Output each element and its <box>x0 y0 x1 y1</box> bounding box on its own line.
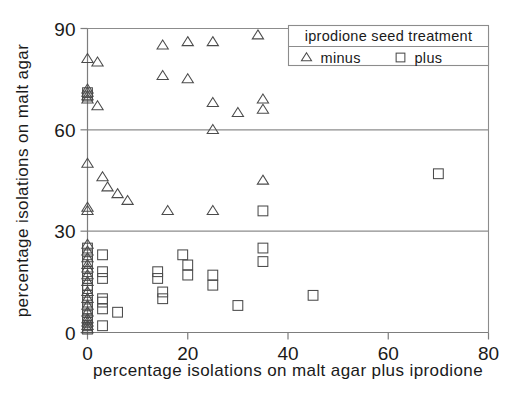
data-point-minus <box>157 40 168 49</box>
series-plus <box>83 88 444 334</box>
data-point-plus <box>98 274 108 284</box>
data-point-plus <box>233 301 243 311</box>
data-point-plus <box>183 270 193 280</box>
data-point-minus <box>92 57 103 66</box>
scatter-plot-figure: 0204060800306090percentage isolations on… <box>0 0 516 398</box>
data-point-plus <box>183 260 193 270</box>
data-point-minus <box>92 101 103 110</box>
data-point-plus <box>113 307 123 317</box>
data-point-plus <box>98 294 108 304</box>
data-point-minus <box>102 182 113 191</box>
data-point-minus <box>122 195 133 204</box>
data-point-minus <box>232 108 243 117</box>
data-point-plus <box>208 270 218 280</box>
x-tick-label-0: 0 <box>82 343 93 364</box>
y-axis-title: percentage isolations on malt agar <box>13 44 32 317</box>
data-point-plus <box>98 250 108 260</box>
series-minus <box>82 30 269 333</box>
chart-canvas: 0204060800306090percentage isolations on… <box>0 0 516 398</box>
data-point-plus <box>153 274 163 284</box>
data-point-minus <box>112 189 123 198</box>
data-point-minus <box>162 206 173 215</box>
data-point-minus <box>157 70 168 79</box>
y-tick-label-30: 30 <box>54 221 75 242</box>
data-point-plus <box>98 297 108 307</box>
data-point-plus <box>98 304 108 314</box>
data-point-plus <box>98 321 108 331</box>
y-tick-label-90: 90 <box>54 19 75 40</box>
data-point-minus <box>257 94 268 103</box>
plot-frame-border <box>88 29 489 333</box>
y-tick-label-0: 0 <box>65 323 76 344</box>
legend-label-plus: plus <box>415 50 443 66</box>
data-point-minus <box>252 30 263 39</box>
data-point-plus <box>308 290 318 300</box>
data-point-plus <box>433 169 443 179</box>
data-point-plus <box>158 294 168 304</box>
x-axis-title: percentage isolations on malt agar plus … <box>93 361 483 380</box>
plot-frame <box>88 29 489 333</box>
y-tick-label-60: 60 <box>54 120 75 141</box>
data-point-plus <box>153 267 163 277</box>
legend-title: iprodione seed treatment <box>305 28 473 44</box>
legend-label-minus: minus <box>321 50 361 66</box>
data-point-plus <box>158 287 168 297</box>
data-point-plus <box>258 257 268 267</box>
data-point-plus <box>208 280 218 290</box>
data-point-plus <box>258 206 268 216</box>
x-axis-ticks: 020406080 <box>82 333 499 364</box>
data-point-minus <box>207 124 218 133</box>
data-point-plus <box>178 250 188 260</box>
legend: iprodione seed treatmentminusplus <box>289 26 489 67</box>
data-point-minus <box>257 175 268 184</box>
data-point-minus <box>182 37 193 46</box>
data-point-minus <box>257 104 268 113</box>
data-point-minus <box>207 97 218 106</box>
data-point-minus <box>207 37 218 46</box>
axes <box>88 29 489 333</box>
data-point-plus <box>98 267 108 277</box>
data-point-minus <box>97 172 108 181</box>
data-point-minus <box>207 206 218 215</box>
data-point-plus <box>258 243 268 253</box>
data-point-minus <box>182 74 193 83</box>
